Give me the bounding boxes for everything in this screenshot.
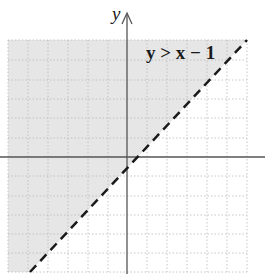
- inequality-label: y > x − 1: [146, 42, 215, 64]
- y-axis-label: y: [112, 3, 120, 25]
- coordinate-plane: [0, 0, 265, 274]
